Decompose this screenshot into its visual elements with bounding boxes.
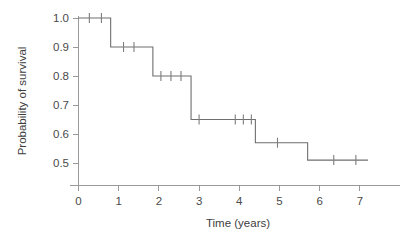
y-axis-title: Probability of survival — [16, 47, 28, 156]
x-tick-label: 0 — [75, 195, 81, 207]
x-tick-label: 6 — [316, 195, 322, 207]
y-axis-group: 0.50.60.70.80.91.0 Probability of surviv… — [16, 12, 79, 185]
survival-step-curve — [79, 18, 368, 160]
x-tick-label: 2 — [156, 195, 162, 207]
survival-chart-figure: 0.50.60.70.80.91.0 Probability of surviv… — [0, 0, 419, 247]
x-tick-label: 1 — [115, 195, 121, 207]
x-axis-title: Time (years) — [206, 217, 270, 229]
y-tick-marks — [73, 18, 79, 163]
y-tick-label: 0.8 — [53, 70, 69, 82]
x-tick-label: 4 — [236, 195, 243, 207]
plot-area: 0.50.60.70.80.91.0 Probability of surviv… — [0, 0, 419, 247]
y-tick-label: 0.5 — [53, 157, 69, 169]
y-tick-label: 0.6 — [53, 128, 69, 140]
x-tick-label: 3 — [196, 195, 202, 207]
x-tick-labels: 01234567 — [75, 195, 363, 207]
x-tick-marks — [79, 186, 360, 192]
x-tick-label: 7 — [357, 195, 363, 207]
x-axis-group: 01234567 Time (years) — [70, 186, 400, 230]
x-tick-label: 5 — [276, 195, 282, 207]
y-tick-label: 0.9 — [53, 41, 69, 53]
censor-marks-group — [89, 13, 356, 165]
y-tick-label: 0.7 — [53, 99, 69, 111]
y-tick-label: 1.0 — [53, 12, 69, 24]
y-tick-labels: 0.50.60.70.80.91.0 — [53, 12, 69, 169]
